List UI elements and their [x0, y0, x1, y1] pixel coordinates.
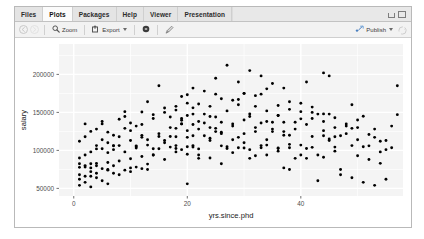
y-tick-label: 200000 [33, 71, 55, 78]
remove-plot-icon [142, 25, 150, 34]
x-tick-label: 40 [297, 200, 305, 207]
tab-label: Files [21, 11, 36, 18]
tab-viewer[interactable]: Viewer [144, 7, 178, 21]
y-tick-label: 150000 [33, 109, 55, 116]
zoom-label: Zoom [62, 27, 77, 33]
tab-packages[interactable]: Packages [73, 7, 117, 21]
export-icon [92, 25, 100, 34]
export-button[interactable]: Export [90, 24, 128, 35]
toolbar-separator [44, 25, 45, 35]
x-tick-label: 0 [72, 200, 76, 207]
back-arrow-icon[interactable] [19, 25, 28, 34]
nav-group [19, 25, 39, 34]
pane-tabstrip: Files Plots Packages Help Viewer Present… [15, 7, 411, 22]
plot-panel [59, 44, 403, 196]
y-axis-title: salary [19, 110, 28, 130]
clear-all-plots-button[interactable] [163, 24, 176, 36]
tab-plots[interactable]: Plots [43, 7, 72, 21]
toolbar-separator [157, 25, 158, 35]
chevron-down-icon[interactable] [123, 28, 127, 31]
y-tick-label: 100000 [33, 147, 55, 154]
plot-output-area[interactable]: 5000010000015000020000002040yrs.since.ph… [15, 38, 411, 227]
x-tick-label: 20 [184, 200, 192, 207]
y-tick-label: 50000 [36, 185, 54, 192]
forward-arrow-icon[interactable] [30, 25, 39, 34]
tab-presentation[interactable]: Presentation [178, 7, 232, 21]
magnifier-icon [52, 25, 60, 34]
toolbar-right-group: Publish [353, 21, 407, 39]
minimize-icon[interactable] [388, 13, 395, 18]
publish-icon [355, 25, 364, 34]
publish-button[interactable]: Publish [353, 24, 395, 35]
plots-toolbar: Zoom Export [15, 22, 411, 38]
remove-plot-button[interactable] [140, 24, 152, 35]
window-controls [383, 7, 411, 21]
tab-label: Viewer [150, 11, 171, 18]
toolbar-separator [134, 25, 135, 35]
refresh-icon[interactable] [398, 21, 407, 39]
scatter-plot: 5000010000015000020000002040yrs.since.ph… [15, 38, 411, 227]
tab-label: Presentation [184, 11, 225, 18]
zoom-button[interactable]: Zoom [50, 24, 79, 35]
maximize-icon[interactable] [398, 11, 406, 18]
screenshot-root: Files Plots Packages Help Viewer Present… [0, 0, 424, 239]
toolbar-separator [84, 25, 85, 35]
tab-label: Packages [79, 11, 110, 18]
publish-label: Publish [366, 27, 386, 33]
tab-files[interactable]: Files [15, 7, 43, 21]
tab-label: Help [123, 11, 138, 18]
tab-label: Plots [49, 11, 65, 18]
plots-pane: Files Plots Packages Help Viewer Present… [14, 6, 412, 228]
tabstrip-filler [232, 7, 383, 21]
export-label: Export [102, 27, 119, 33]
clear-all-plots-icon [165, 25, 174, 35]
chevron-down-icon[interactable] [389, 28, 393, 31]
tab-help[interactable]: Help [117, 7, 145, 21]
x-axis-title: yrs.since.phd [209, 211, 254, 220]
